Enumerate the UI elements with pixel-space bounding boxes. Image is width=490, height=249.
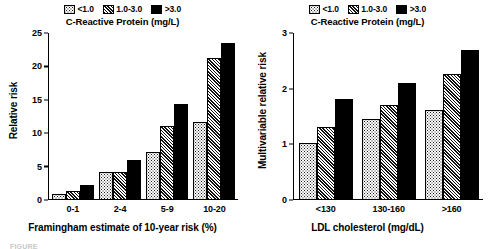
figure-two-panel-bar-charts: <1.0 1.0-3.0 >3.0 C-Reactive Protein (mg… — [0, 0, 490, 249]
y-tick-right-2: 2 — [282, 84, 293, 93]
x-tick-label: 0-1 — [49, 200, 96, 214]
legend-swatch-hatch-icon — [103, 5, 114, 14]
y-tick-mark — [289, 32, 293, 33]
x-tick-label: >160 — [420, 200, 483, 214]
panel-title-left: C-Reactive Protein (mg/L) — [0, 16, 245, 27]
y-axis-title-right: Multivariable relative risk — [257, 46, 268, 176]
legend-entry-crp-low: <1.0 — [64, 4, 94, 14]
bar — [299, 143, 317, 198]
bar-group — [144, 33, 191, 199]
bar — [380, 105, 398, 199]
legend-crp-right: <1.0 1.0-3.0 >3.0 — [245, 4, 490, 14]
plot-area-right: 0123 <130130-160>160 — [293, 33, 483, 200]
y-tick-left-0: 0 — [37, 196, 48, 205]
bar — [362, 119, 380, 199]
x-axis-title-right: LDL cholesterol (mg/dL) — [245, 222, 490, 233]
bar — [335, 99, 353, 198]
x-tick-label: 2-4 — [96, 200, 143, 214]
bar — [461, 50, 479, 199]
bar-group — [357, 33, 420, 199]
bar — [443, 74, 461, 198]
legend-swatch-dots-icon — [309, 5, 320, 14]
plot-area-left: 0510152025 0-12-45-910-20 — [48, 33, 238, 200]
bar — [174, 104, 188, 199]
y-tick-left-20: 20 — [32, 62, 48, 71]
legend-entry-crp-low: <1.0 — [309, 4, 339, 14]
bar — [207, 58, 221, 199]
y-tick-label: 2 — [282, 84, 287, 93]
bar — [127, 160, 141, 199]
legend-entry-crp-mid: 1.0-3.0 — [103, 4, 142, 14]
bar-group — [96, 33, 143, 199]
legend-label-crp-mid: 1.0-3.0 — [116, 4, 142, 14]
bar — [113, 172, 127, 199]
legend-label-crp-low: <1.0 — [77, 4, 93, 14]
bar-groups-left — [49, 33, 238, 199]
y-tick-left-10: 10 — [32, 129, 48, 138]
y-tick-right-0: 0 — [282, 196, 293, 205]
y-tick-label: 3 — [282, 29, 287, 38]
y-tick-mark — [44, 166, 48, 167]
x-tick-labels-right: <130130-160>160 — [294, 200, 483, 214]
y-tick-label: 20 — [32, 62, 42, 71]
y-tick-mark — [44, 66, 48, 67]
legend-entry-crp-mid: 1.0-3.0 — [348, 4, 387, 14]
legend-swatch-dots-icon — [64, 5, 75, 14]
y-tick-left-15: 15 — [32, 95, 48, 104]
bar — [398, 83, 416, 199]
x-tick-label: <130 — [294, 200, 357, 214]
x-tick-label: 10-20 — [191, 200, 238, 214]
bar — [425, 110, 443, 198]
figure-caption: FIGURE — [10, 243, 38, 249]
x-tick-labels-left: 0-12-45-910-20 — [49, 200, 238, 214]
y-tick-mark — [289, 199, 293, 200]
panel-title-right: C-Reactive Protein (mg/L) — [245, 16, 490, 27]
y-tick-label: 0 — [37, 196, 42, 205]
bar-group — [191, 33, 238, 199]
panel-framingham: <1.0 1.0-3.0 >3.0 C-Reactive Protein (mg… — [0, 0, 245, 249]
y-tick-left-5: 5 — [37, 162, 48, 171]
y-tick-label: 0 — [282, 196, 287, 205]
bar — [193, 122, 207, 198]
y-tick-label: 5 — [37, 162, 42, 171]
bar — [80, 185, 94, 199]
bar — [66, 191, 80, 198]
y-tick-left-25: 25 — [32, 29, 48, 38]
y-tick-mark — [44, 133, 48, 134]
legend-label-crp-mid: 1.0-3.0 — [361, 4, 387, 14]
legend-label-crp-high: >3.0 — [410, 4, 426, 14]
bar-group — [420, 33, 483, 199]
legend-entry-crp-high: >3.0 — [396, 4, 426, 14]
legend-label-crp-high: >3.0 — [165, 4, 181, 14]
x-tick-label: 130-160 — [357, 200, 420, 214]
y-tick-label: 10 — [32, 129, 42, 138]
legend-swatch-hatch-icon — [348, 5, 359, 14]
y-tick-label: 25 — [32, 29, 42, 38]
y-axis-title-left: Relative risk — [8, 66, 19, 156]
bar — [160, 126, 174, 199]
y-tick-mark — [44, 199, 48, 200]
legend-swatch-solid-icon — [396, 5, 407, 14]
y-tick-label: 15 — [32, 95, 42, 104]
legend-entry-crp-high: >3.0 — [151, 4, 181, 14]
bar — [52, 194, 66, 199]
bar-group — [49, 33, 96, 199]
bar — [146, 152, 160, 198]
y-tick-mark — [44, 99, 48, 100]
bar — [99, 172, 113, 199]
bar-group — [294, 33, 357, 199]
y-tick-mark — [44, 32, 48, 33]
y-tick-mark — [289, 88, 293, 89]
bar — [221, 43, 235, 199]
bar-groups-right — [294, 33, 483, 199]
y-tick-right-1: 1 — [282, 140, 293, 149]
x-axis-title-left: Framingham estimate of 10-year risk (%) — [0, 222, 245, 233]
x-tick-label: 5-9 — [144, 200, 191, 214]
y-tick-right-3: 3 — [282, 29, 293, 38]
legend-label-crp-low: <1.0 — [322, 4, 338, 14]
y-tick-mark — [289, 144, 293, 145]
legend-crp-left: <1.0 1.0-3.0 >3.0 — [0, 4, 245, 14]
bar — [317, 127, 335, 199]
legend-swatch-solid-icon — [151, 5, 162, 14]
y-tick-label: 1 — [282, 140, 287, 149]
